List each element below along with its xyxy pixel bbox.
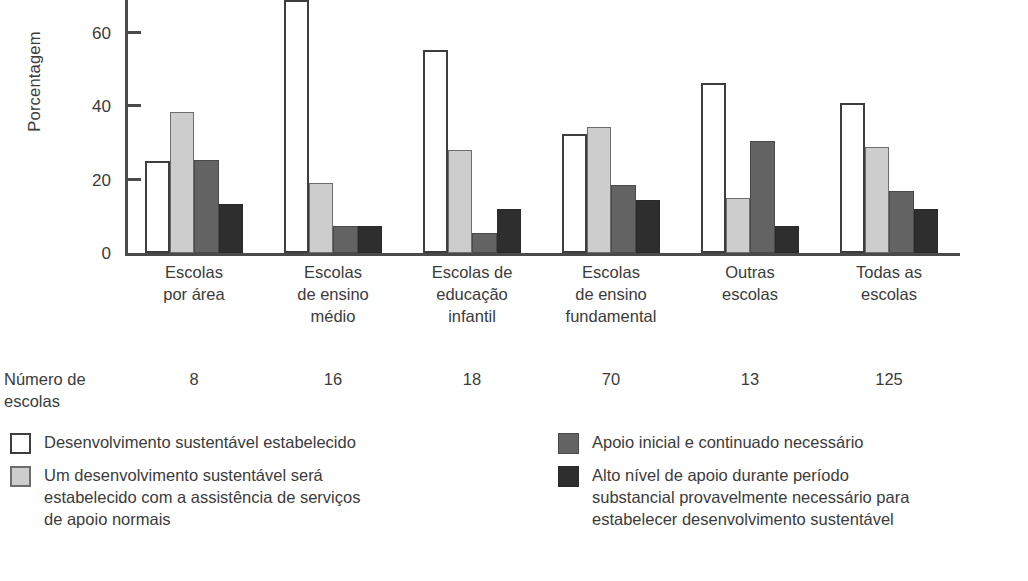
school-count-value: 18 — [422, 368, 522, 390]
bar — [562, 134, 587, 253]
dark-gray-square-icon — [558, 466, 579, 487]
y-axis-tick — [128, 178, 141, 181]
bar — [145, 161, 170, 253]
bar — [309, 183, 334, 253]
legend-item: Um desenvolvimento sustentável será esta… — [10, 465, 530, 530]
y-axis-tick — [128, 31, 141, 34]
category-label: Outras escolas — [670, 262, 830, 306]
chart-legend: Desenvolvimento sustentável estabelecido… — [0, 432, 1028, 562]
figure-caption-clipped — [0, 565, 1028, 581]
school-count-value: 70 — [561, 368, 661, 390]
bar-chart-figure: Porcentagem 0204060 Escolas por áreaEsco… — [0, 0, 1028, 581]
legend-item: Alto nível de apoio durante período subs… — [558, 465, 1018, 530]
bar — [840, 103, 865, 253]
legend-item: Desenvolvimento sustentável estabelecido — [10, 432, 530, 454]
y-axis-tick — [128, 104, 141, 107]
bar — [865, 147, 890, 253]
legend-label: Desenvolvimento sustentável estabelecido — [44, 432, 356, 454]
school-count-value: 16 — [283, 368, 383, 390]
bar — [701, 83, 726, 253]
y-axis-tick-label: 60 — [63, 25, 111, 42]
bar — [914, 209, 939, 253]
legend-label: Apoio inicial e continuado necessário — [592, 432, 864, 454]
bar — [472, 233, 497, 253]
bar — [497, 209, 522, 253]
bar — [333, 226, 358, 253]
category-label: Escolas de ensino médio — [253, 262, 413, 328]
medium-gray-square-icon — [558, 433, 579, 454]
plot-area: 0204060 Escolas por áreaEscolas de ensin… — [125, 0, 960, 256]
category-label: Escolas por área — [114, 262, 274, 306]
legend-column-left: Desenvolvimento sustentável estabelecido… — [10, 432, 530, 541]
bar — [750, 141, 775, 253]
bar — [448, 150, 473, 253]
x-axis-line — [125, 253, 960, 256]
bar — [358, 226, 383, 253]
bar — [284, 0, 309, 253]
y-axis-tick-label: 20 — [63, 172, 111, 189]
school-count-value: 8 — [144, 368, 244, 390]
y-axis-tick-label: 0 — [63, 245, 111, 262]
y-axis-line — [125, 0, 128, 256]
category-label: Todas as escolas — [809, 262, 969, 306]
white-square-icon — [10, 433, 31, 454]
bar — [775, 226, 800, 253]
light-gray-square-icon — [10, 466, 31, 487]
bar — [194, 160, 219, 253]
school-count-value: 125 — [839, 368, 939, 390]
bar — [611, 185, 636, 253]
bar — [726, 198, 751, 253]
y-axis-title: Porcentagem — [25, 2, 44, 162]
legend-column-right: Apoio inicial e continuado necessárioAlt… — [558, 432, 1018, 541]
school-count-value: 13 — [700, 368, 800, 390]
school-count-label: Número de escolas — [4, 368, 86, 412]
legend-label: Alto nível de apoio durante período subs… — [592, 465, 909, 530]
bar — [636, 200, 661, 253]
bar — [889, 191, 914, 253]
school-count-row: Número de escolas 816187013125 — [0, 368, 1028, 418]
bar — [587, 127, 612, 253]
category-label: Escolas de ensino fundamental — [531, 262, 691, 328]
bar — [219, 204, 244, 253]
legend-label: Um desenvolvimento sustentável será esta… — [44, 465, 360, 530]
bar — [423, 50, 448, 253]
legend-item: Apoio inicial e continuado necessário — [558, 432, 1018, 454]
y-axis-tick-label: 40 — [63, 98, 111, 115]
bar — [170, 112, 195, 253]
category-label: Escolas de educação infantil — [392, 262, 552, 328]
